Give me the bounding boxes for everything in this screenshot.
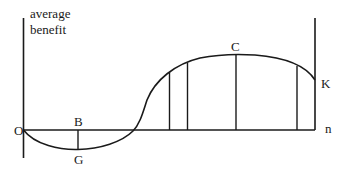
- point-label-B: B: [74, 115, 83, 128]
- point-label-G: G: [74, 153, 83, 166]
- y-axis-label-line2: benefit: [30, 22, 70, 38]
- point-label-C: C: [231, 40, 240, 53]
- y-axis-label: average benefit: [30, 6, 70, 38]
- x-axis-label: n: [325, 122, 332, 135]
- point-label-origin: O: [14, 124, 23, 137]
- point-label-K: K: [321, 77, 330, 90]
- y-axis-label-line1: average: [30, 6, 70, 22]
